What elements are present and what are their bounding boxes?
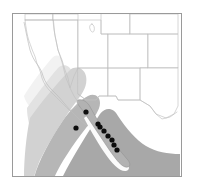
occurrence-dot [109,137,114,142]
occurrence-dot [83,109,88,114]
distribution-map-figure [0,0,198,192]
occurrence-dot [114,147,119,152]
occurrence-dot [73,125,78,130]
map-canvas [0,0,198,192]
occurrence-dot [111,142,116,147]
occurrence-dot [101,128,106,133]
occurrence-dot [97,124,102,129]
occurrence-dot [105,133,110,138]
